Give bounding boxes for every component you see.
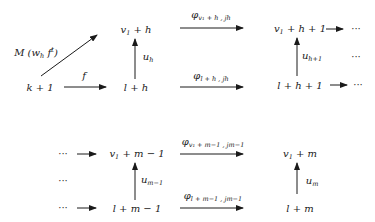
label-phi-bot2: φl + m−1 , jm−1 bbox=[184, 191, 242, 203]
node-v1-plus-h: v1 + h bbox=[121, 25, 152, 37]
node-l-plus-m-minus-1: l + m − 1 bbox=[113, 204, 162, 214]
node-l-plus-h: l + h bbox=[124, 83, 148, 93]
label-um: um bbox=[306, 176, 319, 188]
ellipsis-top-right: ··· bbox=[351, 24, 361, 34]
node-l-plus-h-plus-1: l + h + 1 bbox=[277, 81, 322, 91]
node-v1-plus-m-minus-1: v1 + m − 1 bbox=[109, 149, 164, 161]
node-v1-plus-m: v1 + m bbox=[283, 149, 317, 161]
ellipsis-top-left: ··· bbox=[58, 149, 68, 159]
node-k-plus-1: k + 1 bbox=[26, 83, 53, 93]
ellipsis-mid-left: ··· bbox=[58, 176, 68, 186]
node-l-plus-m: l + m bbox=[286, 204, 313, 214]
ellipsis-bot-left: ··· bbox=[58, 203, 68, 213]
label-f: f bbox=[82, 71, 86, 81]
ellipsis-bot-right: ··· bbox=[353, 80, 363, 90]
ellipsis-mid-right: ··· bbox=[351, 52, 361, 62]
label-phi-bot1: φl + h , jh bbox=[193, 71, 228, 83]
label-um1: um−1 bbox=[141, 175, 163, 187]
label-uh1: uh+1 bbox=[302, 51, 322, 63]
node-v1-plus-h-plus-1: v1 + h + 1 bbox=[274, 24, 326, 36]
label-uh: uh bbox=[143, 52, 154, 64]
label-phi-top2: φv₁ + m−1 , jm−1 bbox=[182, 137, 245, 149]
label-phi-top1: φv₁ + h , jh bbox=[191, 10, 230, 22]
label-diagonal-map: M (wh ft) bbox=[14, 47, 58, 60]
